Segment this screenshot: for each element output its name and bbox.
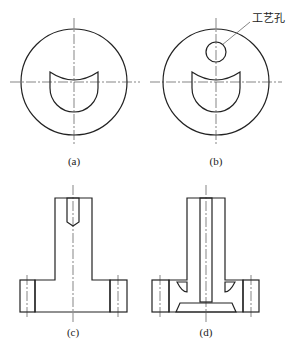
left-undercut [177, 282, 187, 292]
right-undercut [225, 282, 235, 292]
leader-line [222, 22, 250, 45]
t-body [35, 198, 110, 312]
label-a: (a) [68, 155, 81, 168]
right-bolt-hole [110, 280, 127, 312]
panel-d: (d) [152, 185, 259, 339]
drawing-canvas: (a) 工艺孔 (b) (c) (d) [0, 0, 302, 355]
callout-process-hole: 工艺孔 [252, 12, 285, 25]
label-d: (d) [200, 326, 213, 339]
panel-c: (c) [20, 185, 127, 339]
panel-a: (a) [10, 18, 140, 168]
left-bolt-hole [152, 280, 169, 312]
label-c: (c) [67, 326, 80, 339]
panel-b: 工艺孔 (b) [150, 12, 285, 168]
label-b: (b) [210, 155, 223, 168]
left-bolt-hole [20, 280, 35, 312]
